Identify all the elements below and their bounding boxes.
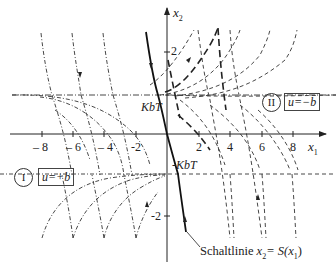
x-tick-label: 4: [227, 141, 233, 153]
x-tick-label: 8: [290, 141, 296, 153]
phase-portrait-canvas: [0, 0, 336, 268]
x-tick-label: 6: [259, 141, 265, 153]
arrow-up-icon: [145, 201, 149, 207]
region-II-control: u=−b: [284, 93, 320, 111]
x2-axis-label: x2: [173, 6, 183, 23]
x-tick-label: 2: [196, 141, 202, 153]
y-tick-label: 2: [171, 45, 177, 57]
minus-kbt-label: -KbT: [172, 159, 197, 171]
region-I-marker: I: [14, 168, 33, 187]
region-I-control: u=+b: [38, 168, 74, 186]
switching-line-leader: [187, 232, 200, 247]
trajectories-region-I: [0, 33, 168, 238]
x-tick-label: – 8: [33, 141, 48, 153]
region-II-marker: II: [262, 93, 281, 112]
arrow-down-icon: [78, 72, 82, 78]
x-tick-label: -2: [131, 141, 141, 153]
x-tick-label: – 4: [98, 141, 113, 153]
switching-line: [146, 32, 186, 232]
x1-axis-label: x1: [308, 140, 318, 157]
kbt-label: KbT: [141, 101, 162, 113]
y-tick-label: -2: [151, 210, 161, 222]
arrow-down-icon: [186, 57, 191, 63]
x-tick-label: – 6: [66, 141, 81, 153]
switching-line-label: Schaltlinie x2= S(x1): [200, 245, 302, 261]
